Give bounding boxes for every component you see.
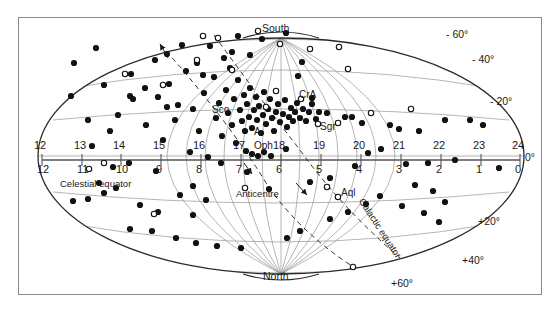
data-point-filled [430, 188, 436, 194]
data-point-filled [425, 160, 431, 166]
data-point-filled [249, 151, 255, 157]
data-point-filled [127, 93, 133, 99]
data-point-filled [396, 126, 402, 132]
data-point-filled [223, 87, 229, 93]
data-point-filled [365, 150, 371, 156]
data-point-open [307, 46, 312, 51]
data-point-filled [175, 102, 181, 108]
data-point-filled [403, 161, 409, 167]
data-point-filled [299, 59, 305, 65]
data-point-filled [260, 112, 266, 118]
data-point-filled [128, 71, 134, 77]
data-point-open [263, 104, 268, 109]
data-point-filled [247, 52, 253, 58]
ra-tick-label: 24 [512, 139, 524, 151]
data-point-filled [196, 128, 202, 134]
constellation-label-cra: CrA [299, 89, 316, 100]
data-point-filled [267, 96, 273, 102]
data-point-filled [416, 128, 422, 134]
ra-tick-label: 17 [233, 139, 245, 151]
data-point-open [273, 88, 278, 93]
galactic-tick-label: 12 [37, 163, 49, 175]
data-point-filled [239, 118, 245, 124]
data-point-filled [235, 77, 241, 83]
data-point-filled [309, 101, 315, 107]
data-point-filled [359, 120, 365, 126]
data-point-open [151, 211, 156, 216]
data-point-filled [229, 122, 235, 128]
data-point-filled [251, 107, 257, 113]
data-point-filled [235, 33, 241, 39]
data-point-filled [107, 128, 113, 134]
data-point-filled [244, 169, 250, 175]
data-point-filled [253, 94, 259, 100]
data-point-filled [268, 153, 274, 159]
data-point-filled [101, 190, 107, 196]
data-point-filled [324, 110, 330, 116]
data-point-filled [345, 209, 351, 215]
data-point-filled [303, 118, 309, 124]
data-point-filled [238, 245, 244, 251]
data-point-filled [219, 133, 225, 139]
data-point-filled [183, 68, 189, 74]
data-point-filled [164, 51, 170, 57]
galactic-tick-label: 3 [396, 163, 402, 175]
constellation-label-sco: Sco [212, 104, 229, 115]
ra-tick-label: 15 [153, 139, 165, 151]
data-point-filled [68, 93, 74, 99]
data-point-filled [85, 117, 91, 123]
data-point-filled [327, 216, 333, 222]
galactic-tick-label: 10 [116, 163, 128, 175]
data-point-filled [378, 146, 384, 152]
data-point-filled [166, 81, 172, 87]
dec-label-minus-20: - 20° [490, 95, 512, 107]
constellation-label-sgr: Sgr [320, 121, 336, 132]
data-point-filled [218, 160, 224, 166]
anticentre-label: Anticentre [236, 188, 279, 199]
data-point-filled [172, 117, 178, 123]
ra-tick-label: 12 [34, 139, 46, 151]
data-point-filled [280, 111, 286, 117]
data-point-filled [261, 89, 267, 95]
data-point-filled [203, 197, 209, 203]
data-point-filled [436, 219, 442, 225]
south-pole-label: South [262, 22, 289, 34]
data-point-open [122, 71, 127, 76]
data-point-open [368, 110, 373, 115]
dec-label-plus-40: +40° [462, 254, 484, 266]
data-point-filled [307, 179, 313, 185]
data-point-filled [149, 228, 155, 234]
constellation-label-a: A [254, 126, 261, 137]
data-point-filled [327, 175, 333, 181]
dec-label-minus-40: - 40° [472, 53, 494, 65]
data-point-filled [275, 101, 281, 107]
data-point-filled [214, 243, 220, 249]
data-point-filled [467, 117, 473, 123]
data-point-open [101, 160, 106, 165]
data-point-filled [377, 193, 383, 199]
data-point-filled [297, 115, 303, 121]
data-point-filled [271, 128, 277, 134]
ra-tick-label: 14 [113, 139, 125, 151]
data-point-open [160, 82, 165, 87]
data-point-filled [142, 85, 148, 91]
data-point-filled [207, 43, 213, 49]
data-point-filled [143, 122, 149, 128]
data-point-filled [342, 114, 348, 120]
celestial-equator-label: Celestial equator [60, 178, 131, 189]
data-point-filled [255, 153, 261, 159]
data-point-filled [213, 115, 219, 121]
constellation-label-oph: Oph [254, 140, 273, 151]
data-point-filled [241, 92, 247, 98]
data-point-filled [221, 55, 227, 61]
sky-map-figure: South North - 60° - 40° - 20° +20° +40° … [0, 0, 560, 311]
galactic-tick-label: 11 [77, 163, 88, 175]
data-point-filled [173, 235, 179, 241]
data-point-filled [452, 157, 458, 163]
north-pole-label: North [263, 270, 289, 282]
data-point-filled [306, 109, 312, 115]
ra-tick-label: 20 [353, 139, 365, 151]
data-point-filled [282, 97, 288, 103]
data-point-filled [89, 143, 95, 149]
data-point-open [335, 194, 340, 199]
